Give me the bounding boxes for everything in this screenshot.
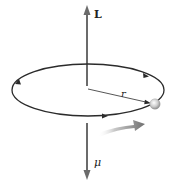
angular-momentum-arrowhead-icon [84, 5, 91, 15]
orbiting-particle [150, 99, 160, 109]
magnetic-moment-vector [84, 123, 91, 180]
radius-line [88, 89, 148, 103]
orbit-direction-marker-icon [102, 114, 108, 119]
radius-vector [88, 89, 151, 104]
orbit-diagram: L r μ [0, 0, 177, 185]
angular-momentum-vector [84, 5, 91, 86]
angular-momentum-label: L [94, 8, 102, 21]
motion-direction-arrow-icon [98, 120, 145, 137]
magnetic-moment-arrowhead-icon [84, 170, 91, 180]
magnetic-moment-label: μ [94, 156, 101, 169]
